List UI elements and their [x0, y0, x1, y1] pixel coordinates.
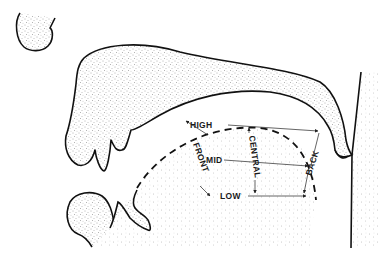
label-low: LOW: [220, 191, 241, 201]
nose-shape: [17, 13, 55, 51]
pharynx-wall: [351, 70, 381, 248]
vowel-diagram: HIGH MID LOW FRONT CENTRAL BACK: [0, 0, 381, 265]
label-high: HIGH: [190, 120, 212, 130]
label-back: BACK: [303, 149, 321, 177]
